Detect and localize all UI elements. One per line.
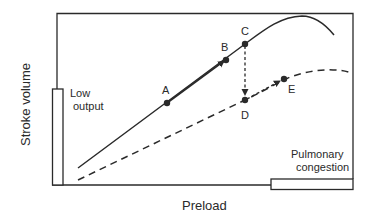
normal-function-curve [78,16,334,168]
low-output-label-line1: Low [70,87,90,99]
point-b-label: B [221,41,228,53]
pulmonary-congestion-zone [271,179,353,190]
point-e [281,76,287,82]
point-d-label: D [241,109,249,121]
diagram-canvas: A B C D E Low output Pulmonary congestio… [0,0,374,214]
y-axis-label: Stroke volume [18,63,33,146]
point-d [242,97,248,103]
low-output-zone [53,89,64,185]
arrow-a-to-b [167,61,224,103]
point-b [223,57,229,63]
pulmonary-label-line2: congestion [296,161,349,173]
low-output-label-line2: output [73,100,104,112]
x-axis-label: Preload [182,198,227,213]
point-e-label: E [288,83,295,95]
point-a [164,100,170,106]
point-a-label: A [162,84,170,96]
point-c [242,41,248,47]
pulmonary-label-line1: Pulmonary [291,148,344,160]
point-c-label: C [241,25,249,37]
